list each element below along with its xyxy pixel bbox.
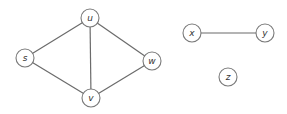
node-label: v: [88, 93, 94, 103]
graph-diagram: uswvxyz: [0, 0, 287, 114]
edge-s-u: [25, 18, 90, 58]
node-x: x: [183, 24, 201, 42]
edge-u-v: [90, 18, 91, 98]
node-s: s: [16, 49, 34, 67]
edge-v-w: [91, 61, 152, 98]
node-label: w: [148, 56, 156, 66]
node-label: s: [23, 53, 28, 63]
node-label: y: [261, 28, 268, 38]
node-u: u: [81, 9, 99, 27]
node-label: x: [188, 28, 195, 38]
node-w: w: [143, 52, 161, 70]
node-label: u: [87, 13, 93, 23]
node-y: y: [256, 24, 274, 42]
node-z: z: [219, 68, 237, 86]
node-label: z: [225, 72, 231, 82]
nodes-layer: uswvxyz: [16, 9, 274, 107]
node-v: v: [82, 89, 100, 107]
edge-s-v: [25, 58, 91, 98]
edge-u-w: [90, 18, 152, 61]
